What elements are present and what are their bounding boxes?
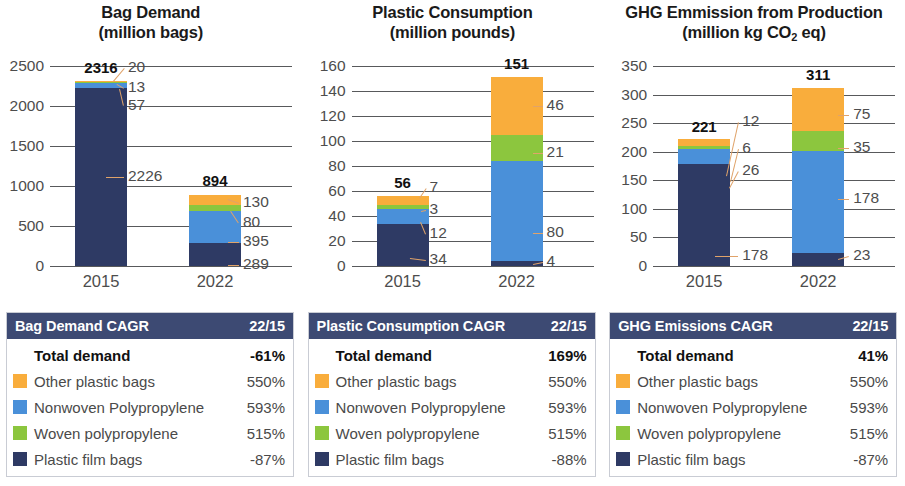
cagr-row-label: Woven polypropylene bbox=[34, 425, 247, 442]
callout-nonwoven-2022: 80 bbox=[547, 223, 564, 241]
cagr-table-row[interactable]: Woven polypropylene515% bbox=[309, 420, 595, 446]
y-axis-tick-label: 100 bbox=[302, 132, 346, 150]
y-axis-tick-label: 100 bbox=[603, 200, 647, 218]
chart-title-ghg-emission: GHG Emmission from Production(million kg… bbox=[603, 2, 905, 44]
bar-segment-other bbox=[792, 88, 844, 131]
gridline bbox=[352, 166, 594, 167]
cagr-table-header: Plastic Consumption CAGR22/15 bbox=[309, 313, 595, 339]
cagr-row-value: 515% bbox=[247, 425, 285, 442]
callout-woven-2015: 6 bbox=[742, 139, 751, 157]
callout-other-2022: 75 bbox=[853, 105, 870, 123]
bar-total-label-2022: 894 bbox=[175, 172, 255, 189]
callout-leader-line bbox=[715, 256, 738, 257]
cagr-row-label: Total demand bbox=[637, 347, 858, 364]
callout-woven-2015: 13 bbox=[128, 78, 145, 96]
cagr-row-label: Nonwoven Polypropylene bbox=[336, 399, 549, 416]
x-axis-tick-label-2022: 2022 bbox=[773, 272, 863, 291]
plot-area-bag-demand: 0500100015002000250023162015894202220135… bbox=[0, 56, 302, 288]
chart-panel-bag-demand: Bag Demand(million bags)0500100015002000… bbox=[0, 0, 302, 486]
legend-swatch-icon bbox=[616, 400, 630, 414]
cagr-row-value: 515% bbox=[850, 425, 888, 442]
callout-film-2015: 178 bbox=[742, 246, 768, 264]
chart-title-plastic-consumption: Plastic Consumption(million pounds) bbox=[302, 2, 604, 42]
callout-leader-line bbox=[838, 199, 849, 200]
cagr-table-body: Total demand41%Other plastic bags550%Non… bbox=[610, 339, 896, 476]
callout-nonwoven-2015: 12 bbox=[430, 224, 447, 242]
legend-swatch-icon bbox=[616, 452, 630, 466]
cagr-table-row[interactable]: Woven polypropylene515% bbox=[7, 420, 293, 446]
cagr-table-header-label: Bag Demand CAGR bbox=[15, 318, 149, 334]
cagr-table-ghg-emission: GHG Emissions CAGR22/15Total demand41%Ot… bbox=[609, 312, 897, 477]
gridline bbox=[352, 66, 594, 67]
cagr-table-row[interactable]: Plastic film bags-87% bbox=[610, 446, 896, 472]
callout-other-2022: 130 bbox=[243, 193, 269, 211]
cagr-row-label: Plastic film bags bbox=[34, 451, 250, 468]
panel-container: Bag Demand(million bags)0500100015002000… bbox=[0, 0, 905, 486]
bar-segment-film bbox=[792, 253, 844, 266]
legend-swatch-icon bbox=[315, 400, 329, 414]
cagr-table-row[interactable]: Plastic film bags-88% bbox=[309, 446, 595, 472]
cagr-table-plastic-consumption: Plastic Consumption CAGR22/15Total deman… bbox=[308, 312, 596, 477]
bar-segment-other bbox=[678, 139, 730, 146]
cagr-row-label: Total demand bbox=[336, 347, 549, 364]
legend-swatch-icon bbox=[315, 374, 329, 388]
y-axis-tick-label: 140 bbox=[302, 82, 346, 100]
cagr-table-row[interactable]: Other plastic bags550% bbox=[7, 368, 293, 394]
cagr-row-value: -87% bbox=[853, 451, 888, 468]
callout-woven-2022: 21 bbox=[547, 143, 564, 161]
y-axis-tick-label: 500 bbox=[0, 217, 44, 235]
cagr-table-header-value: 22/15 bbox=[852, 318, 888, 334]
cagr-row-value: 550% bbox=[850, 373, 888, 390]
x-axis-tick-label-2015: 2015 bbox=[358, 272, 448, 291]
callout-leader-line bbox=[533, 106, 543, 107]
cagr-row-value: 593% bbox=[247, 399, 285, 416]
legend-swatch-icon bbox=[13, 374, 27, 388]
callout-leader-line bbox=[533, 153, 543, 154]
bar-2015[interactable] bbox=[377, 196, 429, 266]
callout-leader-line bbox=[106, 177, 124, 178]
cagr-table-body: Total demand169%Other plastic bags550%No… bbox=[309, 339, 595, 476]
cagr-table-row[interactable]: Other plastic bags550% bbox=[309, 368, 595, 394]
cagr-table-row[interactable]: Plastic film bags-87% bbox=[7, 446, 293, 472]
bar-segment-woven bbox=[678, 146, 730, 149]
cagr-table-row[interactable]: Nonwoven Polypropylene593% bbox=[309, 394, 595, 420]
cagr-table-row[interactable]: Woven polypropylene515% bbox=[610, 420, 896, 446]
cagr-row-value: 593% bbox=[850, 399, 888, 416]
y-axis-tick-label: 150 bbox=[603, 171, 647, 189]
cagr-table-row[interactable]: Nonwoven Polypropylene593% bbox=[610, 394, 896, 420]
y-axis-tick-label: 80 bbox=[302, 157, 346, 175]
bar-2015[interactable] bbox=[75, 81, 127, 266]
bar-2022[interactable] bbox=[189, 194, 241, 266]
cagr-row-label: Plastic film bags bbox=[336, 451, 552, 468]
chart-panel-plastic-consumption: Plastic Consumption(million pounds)02040… bbox=[302, 0, 604, 486]
chart-title-line1: GHG Emmission from Production bbox=[625, 3, 882, 21]
cagr-table-row[interactable]: Total demand169% bbox=[309, 342, 595, 368]
callout-film-2022: 289 bbox=[243, 255, 269, 273]
cagr-table-row[interactable]: Total demand41% bbox=[610, 342, 896, 368]
cagr-table-row[interactable]: Total demand-61% bbox=[7, 342, 293, 368]
cagr-table-bag-demand: Bag Demand CAGR22/15Total demand-61%Othe… bbox=[6, 312, 294, 477]
callout-film-2022: 23 bbox=[853, 246, 870, 264]
chart-panel-ghg-emission: GHG Emmission from Production(million kg… bbox=[603, 0, 905, 486]
callout-other-2015: 20 bbox=[128, 58, 145, 76]
plot-area-ghg-emission: 0501001502002503003502212015311202212626… bbox=[603, 56, 905, 288]
bar-segment-other bbox=[377, 196, 429, 205]
y-axis-tick-label: 20 bbox=[302, 232, 346, 250]
cagr-row-value: -61% bbox=[250, 347, 285, 364]
callout-film-2022: 4 bbox=[547, 252, 556, 270]
cagr-row-label: Total demand bbox=[34, 347, 250, 364]
bar-segment-woven bbox=[75, 82, 127, 83]
bar-2015[interactable] bbox=[678, 140, 730, 266]
cagr-row-label: Other plastic bags bbox=[336, 373, 549, 390]
cagr-row-value: -87% bbox=[250, 451, 285, 468]
cagr-table-header-label: Plastic Consumption CAGR bbox=[317, 318, 506, 334]
bar-2022[interactable] bbox=[792, 88, 844, 266]
cagr-row-label: Nonwoven Polypropylene bbox=[637, 399, 850, 416]
callout-nonwoven-2022: 178 bbox=[853, 189, 879, 207]
cagr-table-row[interactable]: Other plastic bags550% bbox=[610, 368, 896, 394]
x-axis-tick-label-2015: 2015 bbox=[56, 272, 146, 291]
callout-film-2015: 2226 bbox=[128, 167, 162, 185]
cagr-table-row[interactable]: Nonwoven Polypropylene593% bbox=[7, 394, 293, 420]
x-axis-tick-label-2022: 2022 bbox=[472, 272, 562, 291]
x-axis-tick-label-2015: 2015 bbox=[659, 272, 749, 291]
